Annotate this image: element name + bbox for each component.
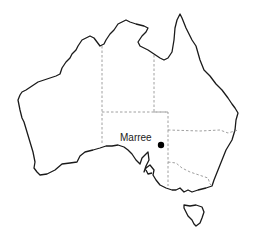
tasmania-coastline bbox=[184, 205, 204, 226]
border-qld-nsw bbox=[168, 130, 238, 133]
mainland-coastline bbox=[18, 14, 238, 192]
australia-map: Marree bbox=[0, 0, 256, 243]
gulf-detail bbox=[146, 170, 152, 174]
border-sa-qld bbox=[154, 112, 168, 130]
marree-marker bbox=[158, 142, 164, 148]
marree-label: Marree bbox=[120, 132, 152, 143]
border-nsw-vic bbox=[168, 162, 212, 186]
map-canvas bbox=[0, 0, 256, 243]
